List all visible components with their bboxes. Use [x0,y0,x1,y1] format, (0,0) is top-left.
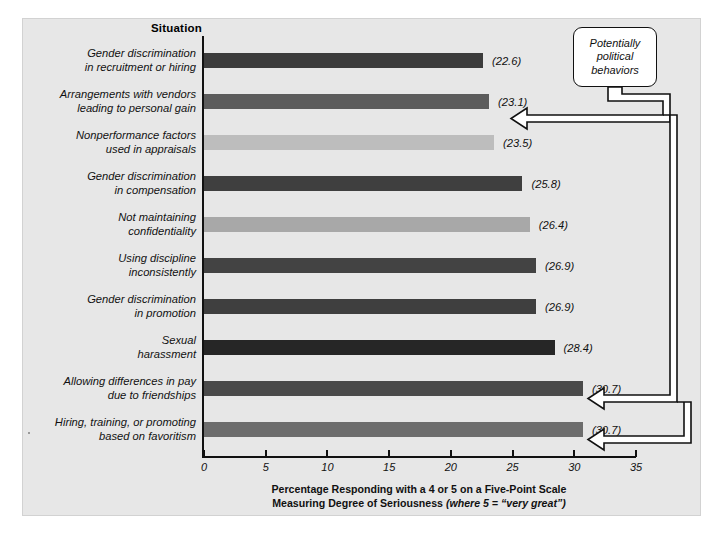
x-axis-tick-0 [203,450,205,457]
category-label-line-2: harassment [138,348,196,361]
bar-row: Hiring, training, or promotingbased on f… [0,409,724,450]
x-axis-title-line-1: Percentage Responding with a 4 or 5 on a… [202,482,636,496]
category-label-line-2: leading to personal gain [77,102,196,115]
category-label: Gender discriminationin promotion [40,286,196,327]
bar-row: Gender discriminationin promotion(26.9) [0,286,724,327]
bar-row: Not maintainingconfidentiality(26.4) [0,204,724,245]
category-label: Not maintainingconfidentiality [40,204,196,245]
category-label: Gender discriminationin compensation [40,163,196,204]
bar [204,53,483,68]
x-axis-tick-label-0: 0 [201,461,207,473]
bar [204,381,583,396]
x-axis-tick-10 [326,450,328,457]
x-axis-tick-label-5: 5 [263,461,269,473]
category-label-line-1: Using discipline [118,252,196,265]
x-axis-line [202,456,636,458]
x-axis-tick-5 [265,450,267,457]
category-label-line-1: Sexual [162,334,196,347]
category-label-line-1: Allowing differences in pay [64,375,196,388]
callout-line-3: behaviors [591,64,639,78]
category-label-line-2: in compensation [115,184,196,197]
callout-box: Potentially political behaviors [573,27,657,87]
x-axis-tick-label-35: 35 [630,461,642,473]
category-label-line-1: Gender discrimination [87,47,196,60]
bar [204,258,536,273]
category-label-line-2: inconsistently [129,266,196,279]
bar-row: Allowing differences in paydue to friend… [0,368,724,409]
bar-value-label: (26.9) [545,286,574,327]
category-column-header: Situation [40,22,202,34]
category-label: Gender discriminationin recruitment or h… [40,40,196,81]
bar [204,176,522,191]
x-axis-tick-label-15: 15 [383,461,395,473]
bar [204,340,555,355]
category-label-line-1: Not maintaining [118,211,196,224]
category-label-line-2: in promotion [134,307,196,320]
bar-row: Gender discriminationin compensation(25.… [0,163,724,204]
bar-row: Arrangements with vendorsleading to pers… [0,81,724,122]
category-label-line-1: Arrangements with vendors [60,88,196,101]
category-label: Using disciplineinconsistently [40,245,196,286]
callout-line-1: Potentially [590,37,641,51]
callout-line-2: political [597,50,634,64]
category-label: Nonperformance factorsused in appraisals [40,122,196,163]
category-label-line-2: based on favoritism [99,430,196,443]
category-label-line-1: Gender discrimination [87,293,196,306]
category-label: Hiring, training, or promotingbased on f… [40,409,196,450]
category-label-line-2: confidentiality [128,225,196,238]
category-label: Arrangements with vendorsleading to pers… [40,81,196,122]
x-axis-tick-20 [450,450,452,457]
bar-value-label: (26.4) [539,204,568,245]
bar-value-label: (30.7) [592,368,621,409]
bar [204,135,494,150]
x-axis-title-line-2-bold: Measuring Degree of Seriousness [272,497,446,509]
x-axis-title: Percentage Responding with a 4 or 5 on a… [202,482,636,510]
x-axis-tick-25 [512,450,514,457]
x-axis-tick-label-20: 20 [445,461,457,473]
bar-row: Sexualharassment(28.4) [0,327,724,368]
bar-value-label: (23.5) [503,122,532,163]
category-label: Allowing differences in paydue to friend… [40,368,196,409]
bar-value-label: (25.8) [531,163,560,204]
bar-value-label: (23.1) [498,81,527,122]
category-label-line-1: Hiring, training, or promoting [55,416,196,429]
x-axis-title-line-2: Measuring Degree of Seriousness (where 5… [202,496,636,510]
category-label-line-1: Gender discrimination [87,170,196,183]
x-axis-tick-label-25: 25 [506,461,518,473]
category-label-line-1: Nonperformance factors [76,129,196,142]
bar-row: Using disciplineinconsistently(26.9) [0,245,724,286]
bar-value-label: (26.9) [545,245,574,286]
bar [204,299,536,314]
x-axis-tick-label-10: 10 [321,461,333,473]
figure-root: Situation 05101520253035 Gender discrimi… [0,0,724,533]
bar [204,94,489,109]
category-label: Sexualharassment [40,327,196,368]
x-axis-tick-30 [573,450,575,457]
x-axis-title-line-2-italic: (where 5 = “very great”) [446,497,566,509]
bar-row: Nonperformance factorsused in appraisals… [0,122,724,163]
x-axis-tick-35 [635,450,637,457]
bar [204,422,583,437]
category-label-line-2: due to friendships [108,389,196,402]
bar [204,217,530,232]
category-label-line-2: in recruitment or hiring [85,61,196,74]
bar-value-label: (30.7) [592,409,621,450]
bar-value-label: (22.6) [492,40,521,81]
bar-value-label: (28.4) [564,327,593,368]
category-label-line-2: used in appraisals [106,143,196,156]
x-axis-tick-15 [388,450,390,457]
x-axis-tick-label-30: 30 [568,461,580,473]
